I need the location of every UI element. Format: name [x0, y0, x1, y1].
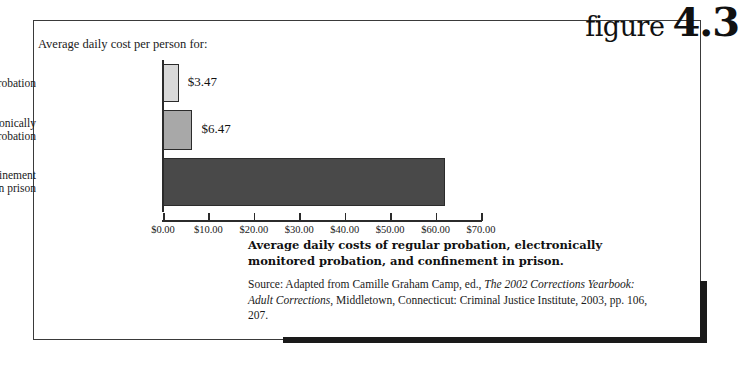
figure-word: figure: [585, 11, 664, 42]
x-tick-label: $30.00: [285, 224, 314, 235]
x-tick-label: $20.00: [239, 224, 268, 235]
x-tick-label: $0.00: [151, 224, 175, 235]
figure-header: figure 4.3: [585, 4, 739, 42]
x-tick: [345, 213, 347, 221]
x-tick-label: $50.00: [376, 224, 405, 235]
caption-source-prefix: Source: Adapted from Camille Graham Camp…: [248, 278, 484, 290]
x-tick-label: $10.00: [194, 224, 223, 235]
category-label: Electronicallymonitored probation: [0, 117, 36, 143]
x-tick: [208, 213, 210, 221]
x-tick-label: $40.00: [330, 224, 359, 235]
caption-title: Average daily costs of regular probation…: [248, 238, 656, 269]
x-tick: [254, 213, 256, 221]
x-tick: [390, 213, 392, 221]
figure-number: 4.3: [672, 4, 739, 40]
chart-title: Average daily cost per person for:: [38, 37, 208, 52]
bar: [163, 158, 445, 206]
x-tick-label: $60.00: [421, 224, 450, 235]
x-tick: [163, 213, 165, 221]
bar: [163, 64, 179, 102]
frame-shadow-bottom: [283, 337, 707, 343]
bar-chart-plot: $0.00$10.00$20.00$30.00$40.00$50.00$60.0…: [38, 60, 488, 240]
category-label: Confinementin prison: [0, 169, 36, 195]
x-tick: [436, 213, 438, 221]
bar: [163, 110, 192, 150]
category-label: Regular probation: [0, 77, 36, 90]
figure-root: figure 4.3 Average daily cost per person…: [0, 0, 751, 371]
bar-value-label: $6.47: [201, 121, 230, 137]
x-axis-line: [162, 220, 482, 222]
x-tick: [481, 213, 483, 221]
x-tick: [299, 213, 301, 221]
frame-shadow-right: [700, 281, 707, 343]
caption-source: Source: Adapted from Camille Graham Camp…: [248, 277, 656, 324]
x-tick-label: $70.00: [467, 224, 496, 235]
caption-block: Average daily costs of regular probation…: [248, 238, 656, 324]
bar-value-label: $3.47: [188, 74, 217, 90]
